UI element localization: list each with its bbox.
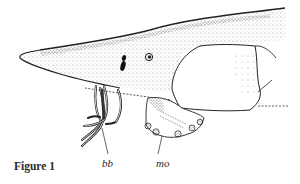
figure-caption: Figure 1 [14, 160, 55, 172]
fish-head-drawing [0, 0, 300, 184]
operculum [172, 45, 288, 111]
label-barbels: bb [102, 157, 113, 169]
barbels [82, 86, 121, 146]
eye [145, 53, 152, 60]
label-mouth: mo [156, 157, 169, 169]
figure-illustration [0, 0, 300, 184]
